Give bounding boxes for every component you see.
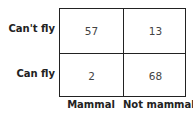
column-label-not-mammal: Not mammal bbox=[123, 99, 187, 110]
cell-can-fly-mammal: 2 bbox=[60, 54, 123, 98]
contingency-table: 57 13 2 68 bbox=[59, 8, 186, 97]
cell-can-fly-not-mammal: 68 bbox=[124, 54, 187, 98]
cell-cant-fly-not-mammal: 13 bbox=[124, 9, 187, 53]
column-label-mammal: Mammal bbox=[59, 99, 123, 110]
cell-cant-fly-mammal: 57 bbox=[60, 9, 123, 53]
row-label-can-fly: Can fly bbox=[16, 68, 55, 79]
row-label-cant-fly: Can't fly bbox=[9, 23, 55, 34]
